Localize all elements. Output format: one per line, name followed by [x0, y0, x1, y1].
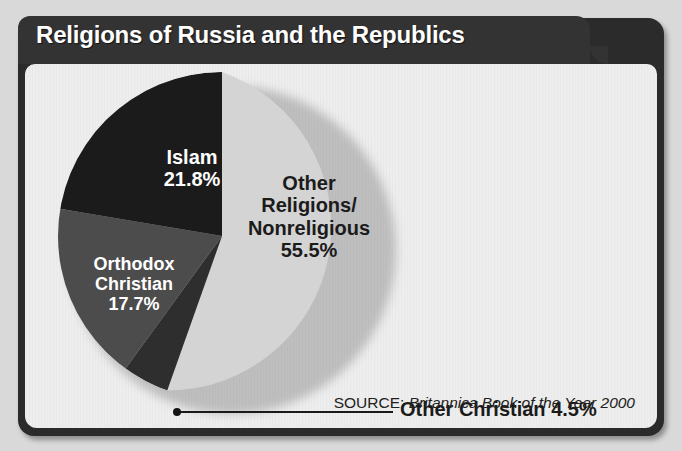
callout-anchor-dot: [173, 408, 181, 416]
source-reference: Britannica Book of the Year 2000: [409, 394, 635, 411]
chart-figure: Religions of Russia and the Republics Is…: [0, 0, 682, 451]
pie-label-orthodox-christian: Orthodox Christian 17.7%: [66, 254, 202, 314]
source-label: SOURCE:: [334, 394, 405, 411]
pie-label-other-religions: Other Religions/ Nonreligious 55.5%: [226, 172, 392, 262]
page-title: Religions of Russia and the Republics: [36, 21, 465, 49]
pie-chart: Islam 21.8% Orthodox Christian 17.7% Oth…: [58, 72, 406, 420]
source-note: SOURCE: Britannica Book of the Year 2000: [334, 394, 635, 412]
chart-panel: Islam 21.8% Orthodox Christian 17.7% Oth…: [25, 64, 657, 428]
